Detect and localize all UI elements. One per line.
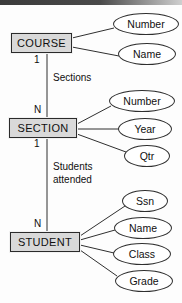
attribute-course-number-label: Number xyxy=(127,18,164,30)
attribute-section-number-label: Number xyxy=(123,95,160,107)
attribute-student-class-label: Class xyxy=(129,248,155,260)
attribute-student-grade-label: Grade xyxy=(129,275,158,287)
attribute-course-name[interactable]: Name xyxy=(118,43,176,65)
entity-section-label: SECTION xyxy=(18,122,69,134)
attribute-section-number[interactable]: Number xyxy=(109,90,175,112)
connector-section-number xyxy=(77,106,111,124)
attribute-course-name-label: Name xyxy=(133,48,161,60)
cardinality-student-students-attended: N xyxy=(34,218,41,229)
cardinality-course-sections: 1 xyxy=(34,54,40,65)
relationship-label-students-attended: Students attended xyxy=(53,161,92,186)
connector-student-class xyxy=(80,245,114,253)
attribute-section-year[interactable]: Year xyxy=(118,118,172,140)
connector-course-name xyxy=(72,47,119,56)
relationship-students-attended-line2: attended xyxy=(53,174,92,187)
cardinality-section-students-attended: 1 xyxy=(34,138,40,149)
cardinality-section-sections: N xyxy=(34,104,41,115)
attribute-student-grade[interactable]: Grade xyxy=(115,270,173,292)
entity-section[interactable]: SECTION xyxy=(9,118,77,138)
entity-student-label: STUDENT xyxy=(18,236,72,248)
relationship-sections-text: Sections xyxy=(53,72,91,83)
attribute-section-qtr[interactable]: Qtr xyxy=(124,145,170,167)
relationship-label-sections: Sections xyxy=(53,72,91,85)
relationship-students-attended-line1: Students xyxy=(53,161,92,174)
connector-course-number xyxy=(72,28,114,38)
entity-course[interactable]: COURSE xyxy=(11,33,72,53)
attribute-student-name-label: Name xyxy=(129,222,157,234)
er-diagram-canvas: COURSE SECTION STUDENT Number Name Numbe… xyxy=(0,0,182,303)
attribute-student-ssn-label: Ssn xyxy=(136,195,154,207)
attribute-course-number[interactable]: Number xyxy=(113,13,179,35)
connector-section-qtr xyxy=(77,134,126,152)
attribute-student-ssn[interactable]: Ssn xyxy=(122,190,168,212)
entity-student[interactable]: STUDENT xyxy=(10,232,80,252)
entity-course-label: COURSE xyxy=(17,37,66,49)
connector-student-name xyxy=(80,230,115,240)
connector-student-grade xyxy=(80,250,117,276)
attribute-student-class[interactable]: Class xyxy=(113,243,171,265)
attribute-section-qtr-label: Qtr xyxy=(140,150,155,162)
attribute-section-year-label: Year xyxy=(134,123,155,135)
attribute-student-name[interactable]: Name xyxy=(114,217,172,239)
